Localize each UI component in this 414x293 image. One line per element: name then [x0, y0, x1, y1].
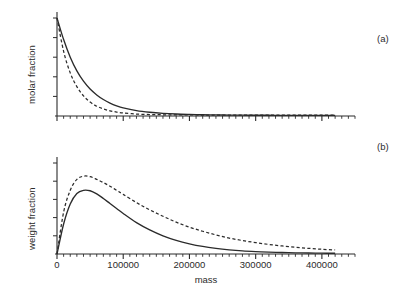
- curve-dashed: [57, 176, 335, 254]
- curve-solid: [57, 190, 335, 254]
- x-tick-label-300000: 300000: [240, 259, 272, 270]
- y-axis-label-a: molar fraction: [26, 45, 37, 104]
- panel-a: molar fraction (a): [0, 0, 414, 148]
- x-tick-label-0: 0: [54, 259, 59, 270]
- plot-area-b: [0, 145, 414, 293]
- panel-tag-b: (b): [377, 141, 389, 152]
- curve-dashed: [57, 18, 335, 115]
- x-axis-label: mass: [195, 274, 218, 285]
- x-tick-label-100000: 100000: [107, 259, 139, 270]
- y-axis-label-b: weight fraction: [26, 187, 37, 250]
- curve-solid: [57, 18, 335, 115]
- panel-tag-a: (a): [377, 33, 389, 44]
- panel-b: weight fraction: [0, 145, 414, 293]
- figure-container: molar fraction (a) weight fraction (b) 0…: [0, 0, 414, 293]
- x-tick-label-400000: 400000: [306, 259, 338, 270]
- x-tick-label-200000: 200000: [174, 259, 206, 270]
- plot-area-a: [0, 0, 414, 148]
